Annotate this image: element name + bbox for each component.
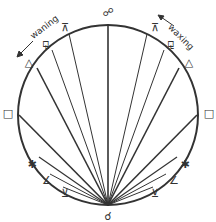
sesquiquadrate-waxing-glyph-icon: ⚼ bbox=[167, 38, 175, 49]
semisquare-waxing-glyph-icon: ∠ bbox=[169, 175, 179, 186]
chord-quincunx-right bbox=[108, 34, 147, 205]
quincunx-waning-glyph-icon: ⊼ bbox=[61, 22, 69, 33]
square-waning-glyph-icon: □ bbox=[3, 108, 13, 119]
trine-waxing-glyph-icon: △ bbox=[185, 57, 193, 68]
sesquiquadrate-waning-glyph-icon: ⚼ bbox=[42, 38, 50, 49]
quincunx-waxing-glyph-icon: ⊼ bbox=[151, 22, 159, 33]
chord-sesquiquadrate-left bbox=[52, 50, 108, 205]
sextile-waxing-glyph-icon: ✱ bbox=[180, 159, 189, 170]
trine-waning-glyph-icon: △ bbox=[25, 57, 33, 68]
opposition-glyph-icon: ☍ bbox=[102, 7, 113, 18]
semisquare-waning-glyph-icon: ∠ bbox=[42, 175, 52, 186]
chord-sesquiquadrate-right bbox=[108, 50, 164, 205]
square-waxing-glyph-icon: □ bbox=[204, 108, 214, 119]
chord-quincunx-left bbox=[69, 34, 108, 205]
semisextile-waning-glyph-icon: ⊻ bbox=[61, 188, 69, 199]
conjunction-glyph-icon: ☌ bbox=[104, 211, 111, 222]
semisextile-waxing-glyph-icon: ⊻ bbox=[151, 188, 159, 199]
sextile-waning-glyph-icon: ✱ bbox=[27, 159, 36, 170]
